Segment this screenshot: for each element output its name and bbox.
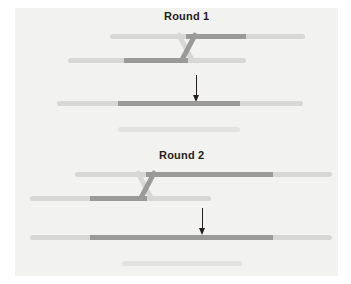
- round-2-title: Round 2: [159, 149, 204, 161]
- strand-segment-light: [240, 101, 303, 106]
- strand-segment-light: [246, 34, 305, 39]
- strand-segment-pale: [122, 261, 242, 266]
- recombination-diagram: Round 1 Round 2: [0, 0, 351, 284]
- strand-segment-light: [188, 58, 246, 63]
- round1-arrow-icon: [190, 75, 202, 102]
- round-1-title: Round 1: [164, 10, 209, 22]
- round1-parent-strand-bottom: [68, 58, 246, 63]
- strand-segment-dark: [146, 172, 273, 177]
- strand-segment-light: [273, 172, 332, 177]
- strand-segment-dark: [124, 58, 188, 63]
- strand-segment-light: [57, 101, 118, 106]
- strand-segment-light: [68, 58, 124, 63]
- strand-segment-light: [110, 34, 186, 39]
- strand-segment-pale: [118, 127, 240, 132]
- round2-product-strand-parental: [122, 261, 242, 266]
- strand-segment-light: [273, 235, 332, 240]
- strand-segment-dark: [90, 235, 273, 240]
- strand-segment-light: [30, 196, 90, 201]
- strand-segment-light: [30, 235, 90, 240]
- round1-parent-strand-top: [110, 34, 305, 39]
- round2-product-strand-recombinant: [30, 235, 332, 240]
- strand-segment-dark: [118, 101, 240, 106]
- round2-parent-strand-bottom: [30, 196, 211, 201]
- strand-segment-light: [147, 196, 211, 201]
- round2-arrow-icon: [196, 208, 208, 235]
- round1-product-strand-recombinant: [57, 101, 303, 106]
- round2-parent-strand-top: [75, 172, 332, 177]
- round1-product-strand-parental: [118, 127, 240, 132]
